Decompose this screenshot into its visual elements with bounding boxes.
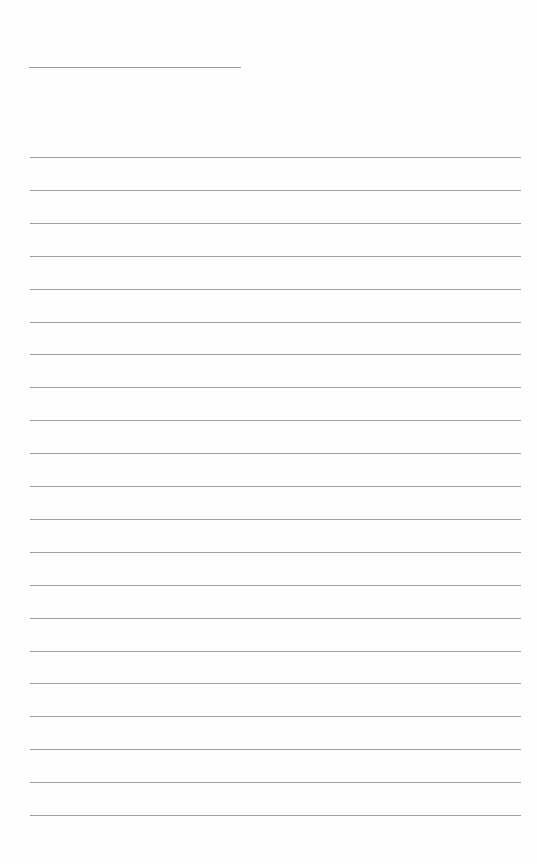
header-name-line — [29, 67, 241, 68]
ruled-line — [30, 683, 521, 684]
ruled-line — [30, 223, 521, 224]
ruled-line — [30, 749, 521, 750]
ruled-line — [30, 322, 521, 323]
ruled-line — [30, 519, 521, 520]
lined-paper-sheet — [0, 0, 537, 864]
ruled-line — [30, 289, 521, 290]
ruled-line — [30, 387, 521, 388]
ruled-line — [30, 782, 521, 783]
ruled-line — [30, 256, 521, 257]
ruled-line — [30, 354, 521, 355]
ruled-line — [30, 453, 521, 454]
ruled-line — [30, 716, 521, 717]
ruled-line — [30, 651, 521, 652]
ruled-line — [30, 815, 521, 816]
ruled-line — [30, 420, 521, 421]
ruled-line — [30, 157, 521, 158]
ruled-line — [30, 190, 521, 191]
ruled-line — [30, 552, 521, 553]
ruled-line — [30, 486, 521, 487]
ruled-line — [30, 585, 521, 586]
ruled-line — [30, 618, 521, 619]
